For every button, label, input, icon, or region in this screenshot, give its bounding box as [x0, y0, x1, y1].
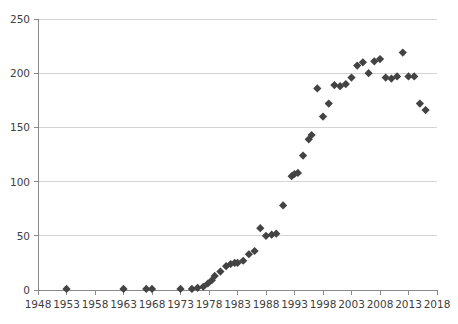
x-tick-label-1968: 1968 — [139, 298, 166, 310]
data-point — [62, 285, 70, 293]
x-tick-label-1973: 1973 — [167, 298, 194, 310]
data-point — [148, 285, 156, 293]
x-tick-label-1998: 1998 — [310, 298, 337, 310]
x-tick-label-2003: 2003 — [338, 298, 365, 310]
x-tick-label-2013: 2013 — [395, 298, 422, 310]
y-tick-label-200: 200 — [10, 67, 30, 79]
data-point — [399, 49, 407, 57]
chart-canvas: 050100150200250 194819531958196319681973… — [0, 0, 458, 324]
y-tick-label-50: 50 — [17, 230, 30, 242]
x-tick-label-1988: 1988 — [253, 298, 280, 310]
x-tick-label-2018: 2018 — [424, 298, 451, 310]
scatter-chart: 050100150200250 194819531958196319681973… — [0, 0, 458, 324]
x-tick-label-1963: 1963 — [110, 298, 137, 310]
data-point — [416, 99, 424, 107]
x-tick-label-1993: 1993 — [281, 298, 308, 310]
y-axis-tick-marks — [34, 19, 38, 290]
data-point-series — [62, 49, 429, 294]
x-tick-label-1958: 1958 — [82, 298, 109, 310]
x-tick-label-1953: 1953 — [53, 298, 80, 310]
data-point — [279, 201, 287, 209]
y-tick-label-0: 0 — [23, 284, 30, 296]
y-tick-label-150: 150 — [10, 121, 30, 133]
data-point — [319, 112, 327, 120]
x-tick-label-1978: 1978 — [196, 298, 223, 310]
x-axis-tick-marks — [38, 290, 437, 295]
x-tick-label-1983: 1983 — [224, 298, 251, 310]
data-point — [313, 84, 321, 92]
data-point — [256, 224, 264, 232]
data-point — [422, 106, 430, 114]
data-point — [365, 69, 373, 77]
data-point — [325, 99, 333, 107]
y-tick-label-250: 250 — [10, 13, 30, 25]
y-axis-tick-labels: 050100150200250 — [10, 13, 30, 296]
y-tick-label-100: 100 — [10, 176, 30, 188]
x-tick-label-2008: 2008 — [367, 298, 394, 310]
gridlines — [38, 19, 437, 236]
data-point — [119, 285, 127, 293]
data-point — [299, 151, 307, 159]
data-point — [176, 285, 184, 293]
x-axis-tick-labels: 1948195319581963196819731978198319881993… — [25, 298, 451, 310]
data-point — [347, 73, 355, 81]
data-point — [216, 267, 224, 275]
x-tick-label-1948: 1948 — [25, 298, 52, 310]
